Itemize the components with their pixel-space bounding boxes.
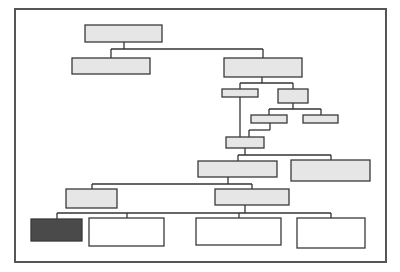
node-box-n [89,218,164,246]
node-box-d [222,89,258,97]
node-box-l [66,189,117,208]
node-box-e [278,89,308,103]
node-box-g [303,115,338,123]
node-box-m [31,219,82,241]
node-boxes [31,25,370,248]
node-box-j [291,160,370,181]
node-box-f [251,115,287,123]
node-box-a [85,25,162,42]
node-box-p [297,218,365,248]
hierarchy-diagram [0,0,400,272]
node-box-b [72,58,150,74]
node-box-i [198,161,277,177]
node-box-o [196,218,281,245]
node-box-k [215,189,289,205]
node-box-c [224,58,302,77]
node-box-h [226,137,264,148]
